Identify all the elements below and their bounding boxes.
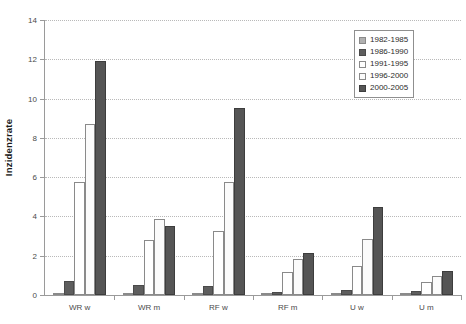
gridline xyxy=(45,177,461,178)
bar xyxy=(293,259,304,295)
bar xyxy=(203,286,214,295)
x-axis-tick xyxy=(322,295,323,300)
bar xyxy=(411,291,422,295)
legend-swatch-icon xyxy=(359,49,366,56)
y-axis-tick xyxy=(40,295,45,296)
bar xyxy=(123,293,134,295)
bar xyxy=(224,182,235,295)
x-axis-tick-label: RF w xyxy=(209,303,228,312)
bar-chart: Inzidenzrate 02468101214WR wWR mRF wRF m… xyxy=(0,0,466,324)
legend-item-label: 1991-1995 xyxy=(370,60,408,68)
gridline xyxy=(45,20,461,21)
bar xyxy=(421,282,432,295)
legend-item-label: 1996-2000 xyxy=(370,72,408,80)
y-axis-tick-label: 10 xyxy=(28,94,37,103)
bar xyxy=(154,219,165,295)
x-axis-tick xyxy=(114,295,115,300)
legend-swatch-icon xyxy=(359,61,366,68)
legend-swatch-icon xyxy=(359,85,366,92)
bar xyxy=(272,292,283,295)
x-axis-tick xyxy=(253,295,254,300)
bar xyxy=(362,239,373,295)
bar xyxy=(373,207,384,295)
y-axis-tick xyxy=(40,256,45,257)
bar xyxy=(144,240,155,295)
bar xyxy=(261,293,272,295)
legend-item-label: 1982-1985 xyxy=(370,36,408,44)
y-axis-tick xyxy=(40,99,45,100)
x-axis-tick xyxy=(461,295,462,300)
bar xyxy=(85,124,96,295)
chart-legend: 1982-19851986-19901991-19951996-20002000… xyxy=(354,30,414,98)
y-axis-tick-label: 4 xyxy=(33,212,37,221)
bar xyxy=(341,290,352,295)
gridline xyxy=(45,216,461,217)
bar xyxy=(213,231,224,295)
legend-item-label: 1986-1990 xyxy=(370,48,408,56)
bar xyxy=(74,182,85,295)
y-axis-tick-label: 6 xyxy=(33,173,37,182)
legend-swatch-icon xyxy=(359,73,366,80)
x-axis-tick-label: U w xyxy=(350,303,364,312)
bar xyxy=(282,272,293,295)
legend-item: 1982-1985 xyxy=(359,34,408,46)
x-axis-tick-label: RF m xyxy=(278,303,298,312)
y-axis-tick-label: 14 xyxy=(28,16,37,25)
y-axis-tick xyxy=(40,59,45,60)
bar xyxy=(192,293,203,295)
y-axis-tick xyxy=(40,216,45,217)
x-axis-tick xyxy=(184,295,185,300)
gridline xyxy=(45,99,461,100)
y-axis-tick-label: 8 xyxy=(33,133,37,142)
bar xyxy=(442,271,453,295)
bar xyxy=(400,293,411,295)
x-axis-tick-label: U m xyxy=(419,303,434,312)
legend-swatch-icon xyxy=(359,37,366,44)
y-axis-tick xyxy=(40,177,45,178)
legend-item: 1986-1990 xyxy=(359,46,408,58)
y-axis-tick-label: 2 xyxy=(33,251,37,260)
bar xyxy=(95,61,106,295)
x-axis-tick xyxy=(392,295,393,300)
legend-item: 1991-1995 xyxy=(359,58,408,70)
gridline xyxy=(45,138,461,139)
legend-item: 1996-2000 xyxy=(359,70,408,82)
x-axis-tick-label: WR w xyxy=(69,303,90,312)
y-axis-tick-label: 12 xyxy=(28,55,37,64)
legend-item-label: 2000-2005 xyxy=(370,84,408,92)
bar xyxy=(303,253,314,295)
bar xyxy=(352,266,363,295)
y-axis-tick-label: 0 xyxy=(33,291,37,300)
y-axis-tick xyxy=(40,20,45,21)
gridline xyxy=(45,256,461,257)
bar xyxy=(234,108,245,295)
bar xyxy=(432,276,443,295)
y-axis-title-label: Inzidenzrate xyxy=(4,119,15,176)
y-axis-title: Inzidenzrate xyxy=(0,0,18,295)
bar xyxy=(64,281,75,295)
y-axis-tick xyxy=(40,138,45,139)
x-axis-tick-label: WR m xyxy=(138,303,160,312)
bar xyxy=(165,226,176,295)
bar xyxy=(331,293,342,295)
legend-item: 2000-2005 xyxy=(359,82,408,94)
bar xyxy=(53,293,64,295)
bar xyxy=(133,285,144,295)
